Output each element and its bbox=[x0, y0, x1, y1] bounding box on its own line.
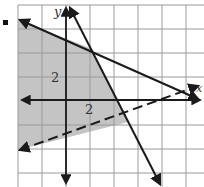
inequality-graph: y x 2 2 bbox=[0, 0, 204, 187]
y-axis-label: y bbox=[53, 4, 62, 19]
x-axis-label: x bbox=[196, 82, 203, 95]
shaded-region bbox=[18, 20, 128, 150]
x-tick-label-2: 2 bbox=[85, 102, 93, 117]
problem-bullet-icon bbox=[3, 20, 8, 25]
y-tick-label-2: 2 bbox=[51, 70, 59, 85]
